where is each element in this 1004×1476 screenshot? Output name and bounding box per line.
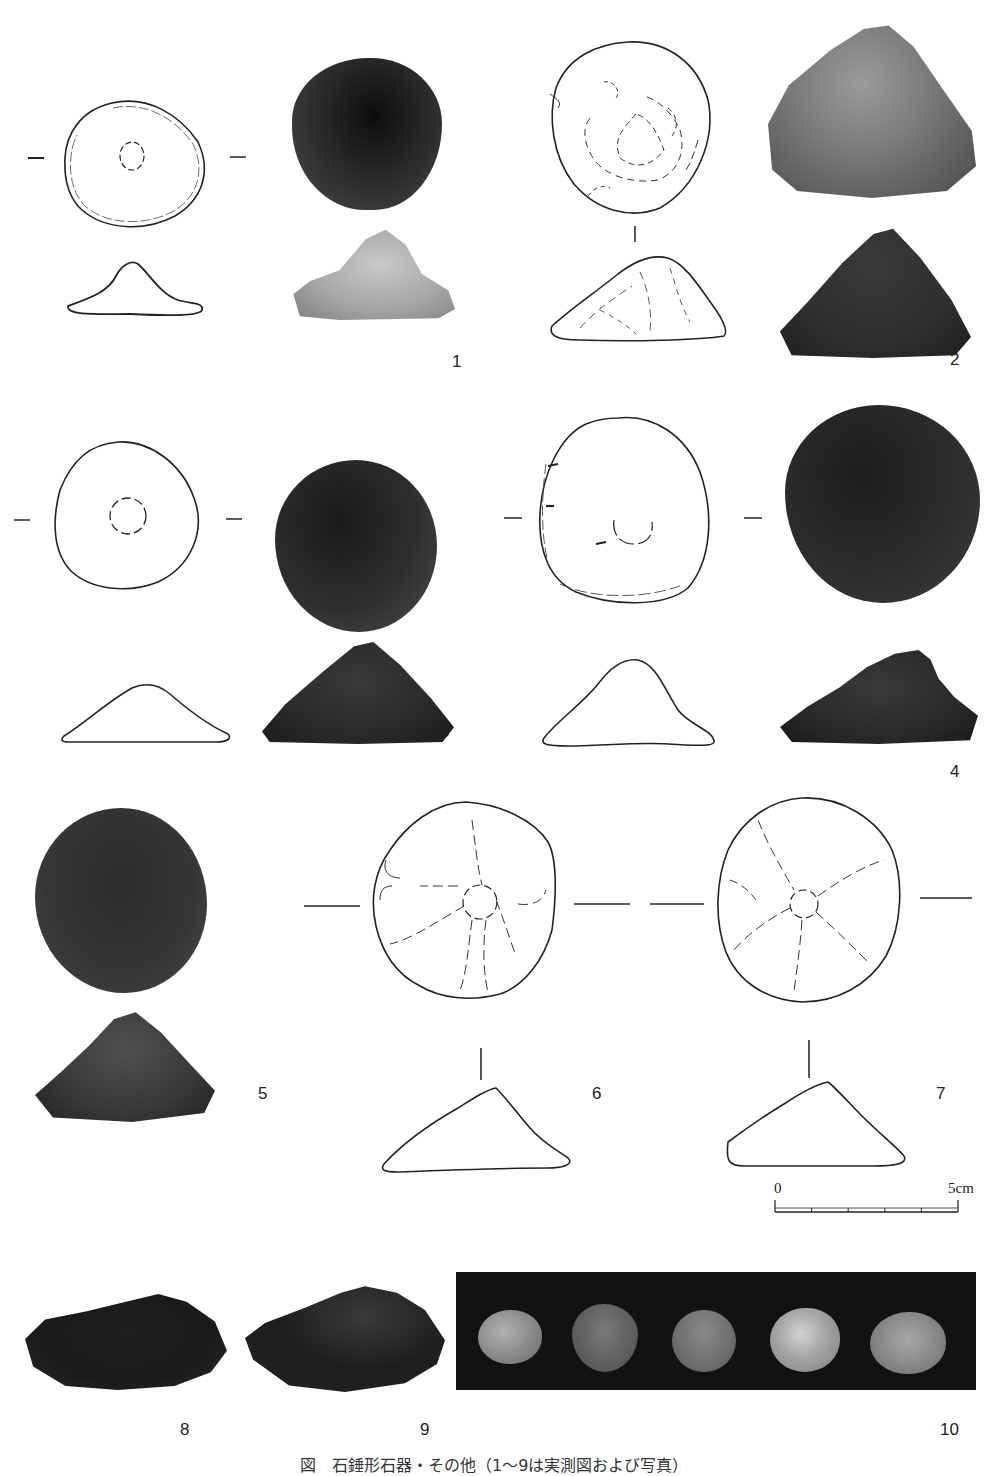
figure-2-profile-drawing: [540, 246, 740, 346]
figure-2-photo-profile: [776, 226, 971, 358]
scale-bar-end-label: 5cm: [948, 1180, 974, 1197]
figure-2-photo-oblique: [768, 22, 976, 198]
figure-10-stone-1: [478, 1310, 542, 1364]
figure-1-number: 1: [452, 352, 461, 372]
figure-7-profile-drawing: [724, 1080, 924, 1172]
figure-4-number: 4: [950, 762, 959, 782]
figure-10-photo-panel: [456, 1272, 976, 1390]
figure-2-number: 2: [950, 350, 959, 370]
figure-9-number: 9: [420, 1420, 429, 1440]
figure-4-photo-plan: [785, 405, 980, 603]
figure-7-number: 7: [936, 1084, 945, 1104]
figure-1-photo-profile: [290, 228, 455, 320]
figure-9-photo-profile: [245, 1284, 445, 1392]
figure-7-axis-mark: [808, 1040, 812, 1080]
figure-4-photo-profile: [780, 650, 978, 744]
figure-8-number: 8: [180, 1420, 189, 1440]
figure-10-stone-2: [572, 1304, 638, 1372]
figure-3-photo-profile: [262, 640, 454, 744]
figure-5-photo-profile: [35, 1010, 215, 1122]
figure-4-plan-drawing: [500, 402, 770, 622]
figure-10-stone-4: [770, 1308, 840, 1372]
figure-6-axis-mark: [480, 1048, 484, 1082]
figure-3-number: 3: [440, 722, 449, 742]
scale-bar-graphic: [774, 1200, 964, 1216]
figure-10-stone-3: [672, 1310, 736, 1372]
figure-1-profile-drawing: [60, 258, 210, 322]
figure-7-plan-drawing: [646, 780, 986, 1030]
figure-2-plan-drawing: [540, 20, 730, 220]
figure-10-number: 10: [940, 1420, 959, 1440]
figure-2-axis-mark: [634, 226, 638, 246]
figure-5-photo-plan: [35, 808, 207, 993]
figure-10-stone-5: [870, 1312, 946, 1374]
figure-1-plan-drawing: [20, 80, 250, 240]
figure-6-number: 6: [592, 1084, 601, 1104]
figure-4-profile-drawing: [538, 652, 728, 748]
figure-6-profile-drawing: [378, 1084, 578, 1176]
figure-6-plan-drawing: [300, 790, 640, 1040]
scale-bar-start-label: 0: [774, 1180, 782, 1197]
figure-5-number: 5: [258, 1084, 267, 1104]
figure-1-photo-plan: [292, 58, 442, 210]
figure-8-photo-profile: [25, 1292, 227, 1390]
figure-3-plan-drawing: [10, 420, 240, 600]
plate-caption: 図 石錘形石器・その他（1〜9は実測図および写真）: [300, 1452, 688, 1476]
figure-3-profile-drawing: [56, 680, 236, 746]
figure-3-photo-plan: [275, 460, 437, 632]
